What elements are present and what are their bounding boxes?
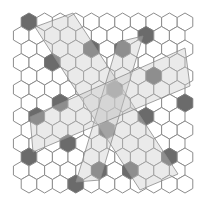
hex-cell: [115, 175, 131, 193]
hex-cell: [52, 175, 68, 193]
hex-grid-diagram: [0, 0, 207, 200]
hex-cell: [177, 175, 193, 193]
hex-cell: [99, 175, 115, 193]
hex-cell: [21, 175, 37, 193]
hex-cell: [37, 175, 53, 193]
